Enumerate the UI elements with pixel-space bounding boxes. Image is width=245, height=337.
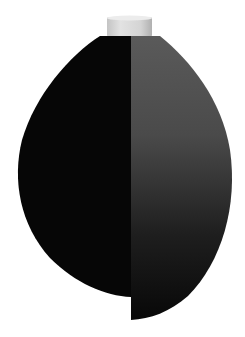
vase-body-right-half bbox=[131, 36, 232, 320]
vase-body-left-half bbox=[18, 36, 131, 297]
vase-photo bbox=[0, 0, 245, 337]
vase-neck bbox=[107, 16, 152, 38]
